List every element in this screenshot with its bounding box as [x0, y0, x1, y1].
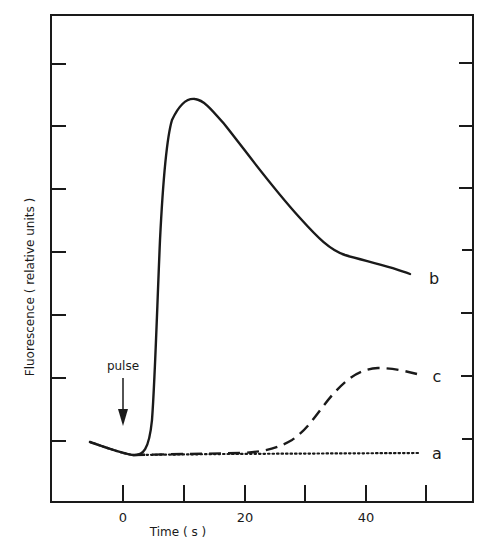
curve-c [133, 368, 417, 455]
fluorescence-chart: 0 20 40 Time ( s ) Fluorescence ( relati… [0, 0, 493, 547]
curve-label-b: b [429, 269, 439, 288]
plot-frame [51, 15, 473, 502]
x-tick-label-40: 40 [358, 510, 375, 525]
curve-label-a: a [432, 444, 442, 463]
pulse-label: pulse [107, 359, 139, 373]
left-y-ticks [51, 64, 66, 441]
pulse-arrow-icon [118, 378, 128, 426]
x-ticks [123, 485, 426, 502]
x-tick-label-20: 20 [237, 510, 254, 525]
curve-b [90, 99, 410, 455]
y-axis-label: Fluorescence ( relative units ) [23, 198, 37, 376]
x-axis-label: Time ( s ) [149, 525, 206, 539]
curve-label-c: c [433, 367, 442, 386]
right-y-ticks [459, 63, 473, 439]
x-tick-label-0: 0 [119, 510, 127, 525]
